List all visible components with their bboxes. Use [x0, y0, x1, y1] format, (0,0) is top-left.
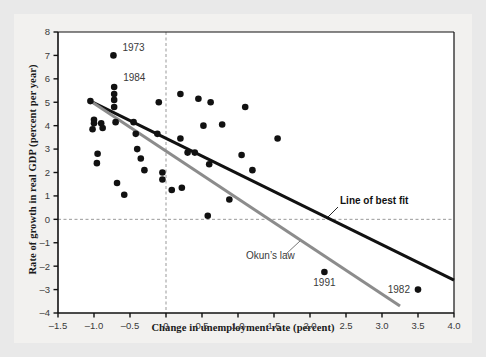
- x-tick-label: –1.0: [85, 320, 104, 331]
- data-point: [89, 126, 96, 133]
- data-point: [99, 125, 106, 132]
- data-point: [141, 167, 148, 174]
- x-tick-label: 2.0: [303, 320, 316, 331]
- scatter-plot-svg: –4–3–2–1012345678–1.5–1.0–0.500.51.01.52…: [14, 14, 472, 343]
- y-tick-label: 0: [45, 214, 50, 225]
- x-tick-label: –1.5: [49, 320, 68, 331]
- data-point: [177, 135, 184, 142]
- data-point: [168, 187, 175, 194]
- y-tick-label: –4: [39, 307, 50, 318]
- data-point: [112, 119, 119, 126]
- data-point: [132, 131, 139, 138]
- x-tick-label: 0.5: [195, 320, 208, 331]
- data-point: [156, 99, 163, 106]
- data-point: [219, 121, 226, 128]
- x-tick-label: 2.5: [339, 320, 352, 331]
- point-label-1973: 1973: [122, 42, 145, 53]
- data-point: [200, 122, 207, 129]
- data-point: [94, 160, 101, 167]
- data-point: [110, 52, 117, 59]
- data-point: [159, 176, 166, 183]
- y-tick-label: 2: [45, 167, 50, 178]
- y-tick-label: –3: [39, 284, 50, 295]
- data-point: [238, 152, 245, 159]
- data-point: [195, 95, 202, 102]
- data-point: [415, 286, 422, 293]
- data-point: [249, 167, 256, 174]
- data-point: [179, 184, 186, 191]
- y-tick-label: 7: [45, 50, 50, 61]
- data-point: [111, 104, 118, 111]
- point-label-1991: 1991: [313, 277, 336, 288]
- x-tick-label: 3.0: [375, 320, 388, 331]
- data-point: [94, 150, 101, 157]
- data-point: [226, 196, 233, 203]
- plot-background: [58, 32, 454, 313]
- x-tick-label: 0: [163, 320, 168, 331]
- data-point: [111, 84, 118, 91]
- data-point: [192, 149, 199, 156]
- y-tick-label: 4: [45, 120, 50, 131]
- best-fit-label: Line of best fit: [340, 195, 409, 206]
- chart-figure: Rate of growth in real GDP (percent per …: [14, 14, 472, 343]
- data-point: [121, 191, 128, 198]
- data-point: [130, 119, 137, 126]
- y-tick-label: 1: [45, 190, 50, 201]
- data-point: [111, 97, 118, 104]
- y-tick-label: 3: [45, 143, 50, 154]
- x-tick-label: –0.5: [121, 320, 140, 331]
- data-point: [242, 104, 249, 111]
- x-tick-label: 1.5: [267, 320, 280, 331]
- y-tick-label: 6: [45, 73, 50, 84]
- point-label-1984: 1984: [123, 72, 146, 83]
- data-point: [138, 155, 145, 162]
- x-tick-label: 1.0: [231, 320, 244, 331]
- data-point: [184, 149, 191, 156]
- y-tick-label: –2: [39, 261, 50, 272]
- data-point: [111, 91, 118, 98]
- data-point: [134, 146, 141, 153]
- x-tick-label: 3.5: [411, 320, 424, 331]
- point-label-1982: 1982: [388, 284, 411, 295]
- data-point: [114, 180, 121, 187]
- data-point: [159, 169, 166, 176]
- data-point: [274, 135, 281, 142]
- y-tick-label: –1: [39, 237, 50, 248]
- data-point: [177, 91, 184, 98]
- data-point: [204, 213, 211, 220]
- x-tick-label: 4.0: [447, 320, 460, 331]
- data-point: [87, 98, 94, 105]
- data-point: [321, 269, 328, 276]
- data-point: [154, 131, 161, 138]
- data-point: [207, 99, 214, 106]
- y-tick-label: 8: [45, 26, 50, 37]
- y-tick-label: 5: [45, 97, 50, 108]
- data-point: [206, 161, 213, 168]
- data-point: [91, 120, 98, 127]
